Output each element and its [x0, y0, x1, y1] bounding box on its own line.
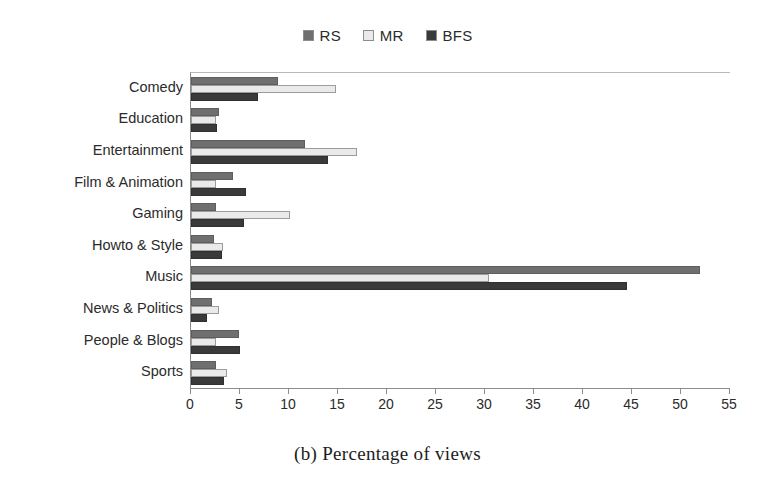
- bar-rs-entertainment: [191, 140, 305, 148]
- x-tick-label-10: 10: [268, 397, 308, 411]
- y-axis-label-news-politics: News & Politics: [0, 301, 183, 316]
- bar-group-entertainment: [191, 136, 730, 168]
- legend-swatch-icon-mr: [363, 30, 374, 41]
- bar-mr-gaming: [191, 211, 290, 219]
- legend-label-rs: RS: [320, 28, 341, 43]
- x-tick-mark-25: [435, 389, 436, 394]
- y-axis-label-people-blogs: People & Blogs: [0, 333, 183, 348]
- legend-swatch-icon-bfs: [426, 30, 437, 41]
- bar-group-sports: [191, 357, 730, 389]
- x-tick-mark-15: [337, 389, 338, 394]
- bar-bfs-people-blogs: [191, 346, 240, 354]
- bar-rs-film-animation: [191, 172, 233, 180]
- y-axis-category-labels: ComedyEducationEntertainmentFilm & Anima…: [0, 72, 183, 388]
- bar-mr-music: [191, 274, 489, 282]
- bar-mr-howto-style: [191, 243, 223, 251]
- bar-bfs-gaming: [191, 219, 244, 227]
- bar-group-film-animation: [191, 168, 730, 200]
- bar-mr-entertainment: [191, 148, 357, 156]
- x-tick-mark-0: [190, 389, 191, 394]
- x-tick-label-45: 45: [611, 397, 651, 411]
- chart-legend: RSMRBFS: [0, 28, 775, 43]
- bar-mr-news-politics: [191, 306, 219, 314]
- bar-group-music: [191, 263, 730, 295]
- legend-label-bfs: BFS: [443, 28, 473, 43]
- x-tick-mark-10: [288, 389, 289, 394]
- bar-bfs-sports: [191, 377, 224, 385]
- x-tick-label-20: 20: [366, 397, 406, 411]
- bar-rs-comedy: [191, 77, 278, 85]
- bar-rs-gaming: [191, 203, 216, 211]
- legend-label-mr: MR: [380, 28, 404, 43]
- x-tick-label-5: 5: [219, 397, 259, 411]
- x-tick-mark-45: [631, 389, 632, 394]
- x-tick-label-40: 40: [562, 397, 602, 411]
- x-tick-mark-35: [533, 389, 534, 394]
- x-tick-mark-5: [239, 389, 240, 394]
- bar-group-news-politics: [191, 294, 730, 326]
- bar-bfs-film-animation: [191, 188, 246, 196]
- bar-mr-education: [191, 116, 216, 124]
- bar-mr-film-animation: [191, 180, 216, 188]
- x-tick-label-55: 55: [709, 397, 749, 411]
- y-axis-label-howto-style: Howto & Style: [0, 238, 183, 253]
- legend-entry-rs: RS: [303, 28, 341, 43]
- x-tick-mark-30: [484, 389, 485, 394]
- bar-bfs-news-politics: [191, 314, 207, 322]
- x-axis-line: [190, 388, 730, 389]
- bar-group-howto-style: [191, 231, 730, 263]
- bar-bfs-education: [191, 124, 217, 132]
- x-tick-label-0: 0: [170, 397, 210, 411]
- bar-bfs-comedy: [191, 93, 258, 101]
- bar-bfs-entertainment: [191, 156, 328, 164]
- bar-group-people-blogs: [191, 326, 730, 358]
- legend-entry-mr: MR: [363, 28, 404, 43]
- legend-entry-bfs: BFS: [426, 28, 473, 43]
- y-axis-label-entertainment: Entertainment: [0, 143, 183, 158]
- x-tick-label-15: 15: [317, 397, 357, 411]
- y-axis-label-music: Music: [0, 269, 183, 284]
- bar-mr-people-blogs: [191, 338, 216, 346]
- x-tick-mark-20: [386, 389, 387, 394]
- bar-mr-sports: [191, 369, 227, 377]
- y-axis-label-film-animation: Film & Animation: [0, 175, 183, 190]
- figure-percentage-of-views: RSMRBFS ComedyEducationEntertainmentFilm…: [0, 0, 775, 494]
- bar-rs-sports: [191, 361, 216, 369]
- x-tick-label-35: 35: [513, 397, 553, 411]
- bar-bfs-howto-style: [191, 251, 222, 259]
- y-axis-label-sports: Sports: [0, 364, 183, 379]
- y-axis-label-education: Education: [0, 111, 183, 126]
- x-tick-label-25: 25: [415, 397, 455, 411]
- bar-rs-music: [191, 266, 700, 274]
- bar-rs-howto-style: [191, 235, 214, 243]
- x-tick-label-50: 50: [660, 397, 700, 411]
- figure-caption: (b) Percentage of views: [0, 443, 775, 465]
- x-tick-mark-50: [680, 389, 681, 394]
- bar-group-education: [191, 105, 730, 137]
- y-axis-label-comedy: Comedy: [0, 80, 183, 95]
- y-axis-label-gaming: Gaming: [0, 206, 183, 221]
- legend-swatch-icon-rs: [303, 30, 314, 41]
- bar-bfs-music: [191, 282, 627, 290]
- bar-group-gaming: [191, 199, 730, 231]
- bar-group-comedy: [191, 73, 730, 105]
- bar-mr-comedy: [191, 85, 336, 93]
- plot-area: [190, 72, 730, 389]
- x-tick-mark-40: [582, 389, 583, 394]
- bar-rs-education: [191, 108, 219, 116]
- x-tick-label-30: 30: [464, 397, 504, 411]
- bar-rs-news-politics: [191, 298, 212, 306]
- x-tick-mark-55: [729, 389, 730, 394]
- bar-rs-people-blogs: [191, 330, 239, 338]
